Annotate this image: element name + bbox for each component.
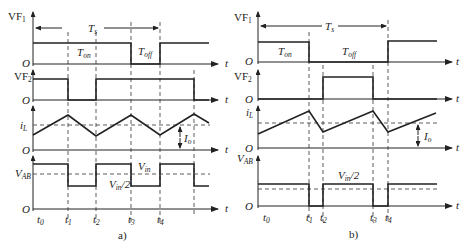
svg-text:VF1: VF1: [234, 11, 252, 25]
il-waveform: iL O t Io: [245, 106, 460, 154]
svg-text:O: O: [245, 93, 253, 105]
period-arrow: Ts: [261, 20, 386, 34]
svg-text:Ton: Ton: [278, 45, 292, 59]
svg-text:VF2: VF2: [234, 70, 252, 84]
svg-text:t: t: [225, 57, 229, 69]
svg-text:t4: t4: [157, 213, 164, 227]
svg-text:Toff: Toff: [342, 45, 357, 59]
vab-waveform: VAB O t Vin Vin/2: [15, 156, 229, 215]
vab-waveform: VAB O t Vin/2: [237, 152, 460, 212]
svg-text:t: t: [456, 199, 460, 211]
svg-text:t2: t2: [320, 211, 327, 225]
svg-text:VAB: VAB: [15, 167, 31, 181]
svg-text:Toff: Toff: [138, 45, 153, 59]
panel-b: Ts VF1 O t Ton Toff VF2 O t i: [234, 11, 460, 241]
svg-text:Ts: Ts: [88, 22, 97, 36]
svg-text:t3: t3: [128, 213, 135, 227]
svg-text:t1: t1: [65, 213, 72, 227]
svg-text:iL: iL: [246, 106, 253, 120]
svg-text:O: O: [245, 142, 253, 154]
il-waveform: iL O t Io: [20, 106, 229, 156]
svg-text:O: O: [22, 144, 30, 156]
svg-text:O: O: [22, 94, 30, 106]
svg-text:O: O: [22, 203, 30, 215]
svg-text:t: t: [456, 92, 460, 104]
vf2-waveform: VF2 O t: [14, 70, 229, 106]
vf2-waveform: VF2 O t: [234, 70, 460, 105]
svg-text:t4: t4: [385, 211, 392, 225]
svg-text:Ts: Ts: [325, 20, 334, 34]
panel-a: Ts VF1 O t Ton Toff VF2 O t: [8, 10, 229, 242]
period-arrow: Ts: [36, 22, 158, 36]
svg-text:Vin/2: Vin/2: [338, 169, 360, 183]
svg-text:O: O: [22, 57, 30, 69]
svg-text:iL: iL: [20, 119, 27, 133]
svg-text:t: t: [225, 143, 229, 155]
svg-text:O: O: [245, 55, 253, 67]
svg-text:t3: t3: [370, 211, 377, 225]
svg-text:Vin/2: Vin/2: [109, 178, 131, 192]
svg-text:t2: t2: [93, 213, 100, 227]
svg-text:t: t: [225, 93, 229, 105]
svg-text:t: t: [225, 202, 229, 214]
svg-text:VF2: VF2: [14, 70, 32, 84]
svg-text:t0: t0: [263, 211, 270, 225]
vf1-waveform: VF1 O t Ton Toff: [8, 10, 229, 69]
time-labels: t0 t1 t2 t3 t4: [263, 211, 392, 225]
svg-text:Ton: Ton: [77, 46, 91, 60]
svg-text:Vin: Vin: [138, 160, 151, 174]
svg-text:t1: t1: [306, 211, 313, 225]
svg-text:t: t: [456, 55, 460, 67]
svg-text:VF1: VF1: [8, 10, 26, 24]
svg-text:O: O: [245, 200, 253, 212]
timing-diagram: Ts VF1 O t Ton Toff VF2 O t: [0, 0, 473, 251]
svg-text:Io: Io: [423, 130, 432, 144]
caption-a: a): [118, 229, 127, 242]
vf1-waveform: VF1 O t Ton Toff: [234, 11, 460, 67]
svg-text:t0: t0: [37, 213, 44, 227]
svg-text:Io: Io: [183, 132, 192, 146]
time-labels: t0 t1 t2 t3 t4: [37, 213, 164, 227]
svg-text:t: t: [456, 141, 460, 153]
svg-text:VAB: VAB: [237, 152, 253, 166]
caption-b: b): [349, 228, 359, 241]
